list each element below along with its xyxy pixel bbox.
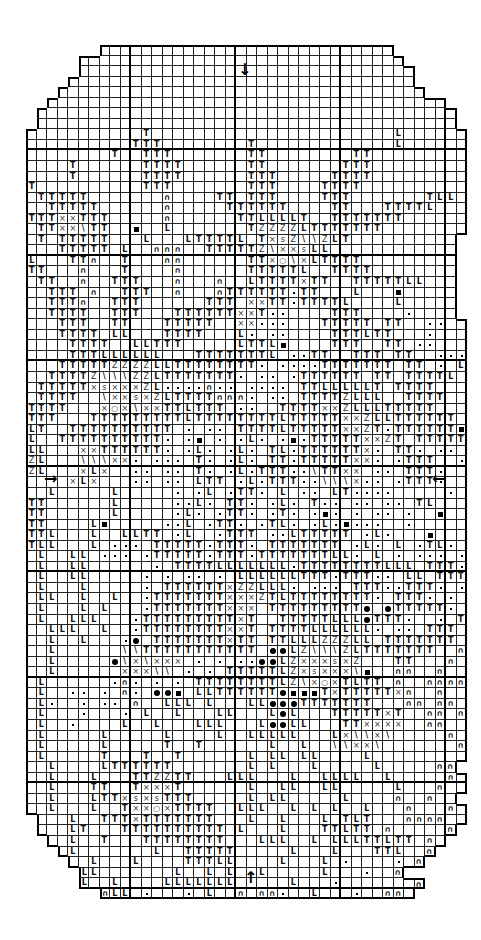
grid-cell bbox=[299, 119, 310, 130]
grid-cell bbox=[436, 309, 447, 320]
grid-cell bbox=[446, 509, 457, 520]
grid-cell bbox=[68, 119, 79, 130]
grid-cell: T bbox=[194, 604, 205, 615]
grid-cell: T bbox=[215, 583, 226, 594]
grid-cell bbox=[100, 87, 111, 98]
grid-cell bbox=[373, 477, 384, 488]
grid-cell: L bbox=[278, 499, 289, 510]
grid-cell bbox=[68, 709, 79, 720]
grid-cell bbox=[457, 98, 468, 109]
grid-cell: T bbox=[394, 604, 405, 615]
grid-cell: L bbox=[37, 720, 48, 731]
grid-cell: T bbox=[142, 773, 153, 784]
grid-cell: T bbox=[257, 340, 268, 351]
grid-cell bbox=[131, 899, 142, 910]
grid-cell bbox=[121, 193, 132, 204]
grid-cell: L bbox=[100, 604, 111, 615]
grid-cell bbox=[26, 604, 37, 615]
grid-cell bbox=[58, 87, 69, 98]
grid-cell bbox=[163, 899, 174, 910]
grid-cell bbox=[310, 741, 321, 752]
grid-cell: T bbox=[47, 224, 58, 235]
grid-cell: T bbox=[320, 604, 331, 615]
grid-cell: L bbox=[247, 804, 258, 815]
grid-cell bbox=[26, 203, 37, 214]
grid-cell bbox=[110, 98, 121, 109]
grid-cell: T bbox=[404, 583, 415, 594]
grid-cell bbox=[121, 129, 132, 140]
grid-cell bbox=[131, 488, 142, 499]
grid-cell bbox=[68, 783, 79, 794]
grid-cell bbox=[415, 509, 426, 520]
grid-cell bbox=[247, 45, 258, 56]
grid-cell: ∩ bbox=[404, 815, 415, 826]
grid-cell bbox=[173, 741, 184, 752]
grid-cell bbox=[236, 899, 247, 910]
grid-cell: L bbox=[247, 562, 258, 573]
grid-cell bbox=[331, 878, 342, 889]
grid-cell: T bbox=[194, 625, 205, 636]
grid-cell bbox=[226, 161, 237, 172]
grid-cell bbox=[425, 235, 436, 246]
grid-cell bbox=[142, 699, 153, 710]
grid-cell: T bbox=[268, 277, 279, 288]
grid-cell bbox=[289, 741, 300, 752]
grid-cell bbox=[383, 499, 394, 510]
grid-cell bbox=[299, 319, 310, 330]
grid-cell: × bbox=[236, 615, 247, 626]
grid-cell bbox=[236, 699, 247, 710]
grid-cell: T bbox=[89, 203, 100, 214]
grid-cell: T bbox=[247, 172, 258, 183]
grid-cell bbox=[415, 98, 426, 109]
grid-cell: × bbox=[299, 657, 310, 668]
grid-cell bbox=[394, 773, 405, 784]
grid-cell: T bbox=[58, 193, 69, 204]
grid-cell bbox=[68, 530, 79, 541]
grid-cell bbox=[236, 783, 247, 794]
grid-cell: T bbox=[47, 372, 58, 383]
grid-cell bbox=[26, 667, 37, 678]
grid-cell bbox=[131, 477, 142, 488]
grid-cell bbox=[257, 488, 268, 499]
grid-cell bbox=[310, 77, 321, 88]
grid-cell bbox=[68, 456, 79, 467]
grid-cell bbox=[247, 404, 258, 415]
grid-cell: L bbox=[289, 636, 300, 647]
grid-cell bbox=[26, 129, 37, 140]
grid-cell: T bbox=[173, 372, 184, 383]
grid-cell bbox=[121, 593, 132, 604]
grid-cell bbox=[47, 815, 58, 826]
grid-cell: T bbox=[194, 825, 205, 836]
grid-cell: T bbox=[184, 773, 195, 784]
grid-cell: T bbox=[226, 351, 237, 362]
grid-cell: L bbox=[194, 477, 205, 488]
grid-cell: ∩ bbox=[394, 889, 405, 900]
grid-cell bbox=[89, 636, 100, 647]
grid-cell: T bbox=[236, 541, 247, 552]
grid-cell bbox=[415, 783, 426, 794]
grid-cell: T bbox=[278, 477, 289, 488]
grid-cell: s bbox=[331, 657, 342, 668]
grid-cell bbox=[226, 435, 237, 446]
grid-cell bbox=[79, 172, 90, 183]
grid-cell bbox=[173, 667, 184, 678]
grid-cell: T bbox=[320, 699, 331, 710]
grid-cell bbox=[362, 615, 373, 626]
grid-cell bbox=[383, 520, 394, 531]
grid-cell: ∩ bbox=[436, 699, 447, 710]
grid-cell bbox=[457, 77, 468, 88]
grid-cell bbox=[58, 182, 69, 193]
grid-cell: × bbox=[79, 446, 90, 457]
grid-cell bbox=[47, 572, 58, 583]
grid-cell bbox=[415, 214, 426, 225]
grid-cell: T bbox=[173, 783, 184, 794]
grid-cell: T bbox=[352, 277, 363, 288]
grid-cell bbox=[289, 309, 300, 320]
grid-cell bbox=[142, 583, 153, 594]
grid-cell bbox=[373, 161, 384, 172]
grid-cell: Z bbox=[331, 636, 342, 647]
grid-cell: × bbox=[373, 731, 384, 742]
grid-cell bbox=[163, 119, 174, 130]
grid-cell: T bbox=[404, 604, 415, 615]
grid-row: TTT∩TTT∩∩TTTTTTTTL bbox=[26, 288, 467, 299]
